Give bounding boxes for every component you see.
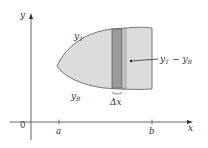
y-axis-label: y [19,10,26,20]
height-label: yT − yB [159,54,192,65]
strip-edge [122,29,126,89]
area-between-curves-diagram: y x 0 a b yT yB Δx yT − yB [0,0,208,148]
tick-label-b: b [149,126,154,136]
origin-label: 0 [20,120,25,130]
bottom-curve-label: yB [70,91,81,102]
delta-x-brace [112,92,122,94]
top-curve-label: yT [73,31,84,42]
pointer-dot [130,60,132,62]
strip-dark [112,29,122,88]
x-axis-label: x [188,123,193,133]
delta-x-label: Δx [109,97,122,107]
region-between-curves [57,27,152,89]
tick-label-a: a [56,126,61,136]
y-axis-arrow-icon [29,13,33,19]
